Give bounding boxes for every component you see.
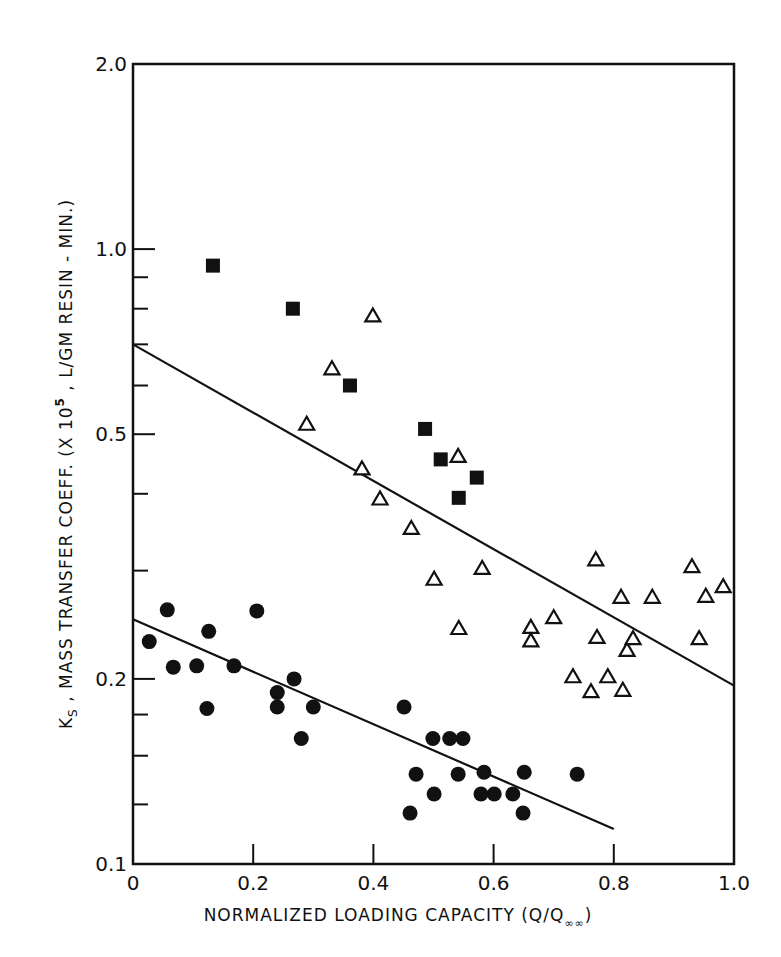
y-axis-ticks: 0.10.20.51.02.0 <box>95 52 155 876</box>
triangle-marker <box>404 521 419 534</box>
circle-marker <box>442 731 457 746</box>
triangle-marker <box>324 361 339 374</box>
triangle-marker <box>698 589 713 602</box>
x-tick-label: 0.2 <box>237 871 269 895</box>
triangle-marker <box>373 492 388 505</box>
square-marker <box>286 302 300 316</box>
circle-marker <box>476 765 491 780</box>
triangle-marker <box>626 631 641 644</box>
circle-marker <box>142 634 157 649</box>
figure-caption <box>0 944 781 957</box>
triangle-marker <box>354 461 369 474</box>
fit-line <box>133 344 734 685</box>
regression-lines <box>133 344 734 829</box>
triangle-marker <box>645 590 660 603</box>
triangle-marker <box>565 669 580 682</box>
triangle-marker <box>589 630 604 643</box>
circle-marker <box>451 767 466 782</box>
circle-marker <box>409 767 424 782</box>
circle-marker <box>306 700 321 715</box>
circle-marker <box>455 731 470 746</box>
square-marker <box>470 471 484 485</box>
x-tick-label: 0.6 <box>478 871 510 895</box>
circle-marker <box>201 624 216 639</box>
fit-line <box>133 619 614 829</box>
data-markers <box>142 259 731 821</box>
circle-marker <box>427 786 442 801</box>
triangle-marker <box>427 572 442 585</box>
scatter-chart: 0.10.20.51.02.0 00.20.40.60.81.0 NORMALI… <box>0 0 781 957</box>
triangle-marker <box>546 610 561 623</box>
triangle-marker <box>692 631 707 644</box>
triangle-marker <box>299 417 314 430</box>
circle-marker <box>226 658 241 673</box>
x-tick-label: 0.8 <box>598 871 630 895</box>
circle-marker <box>166 660 181 675</box>
triangle-marker <box>451 449 466 462</box>
square-marker <box>434 452 448 466</box>
triangle-marker <box>615 683 630 696</box>
triangle-marker <box>583 684 598 697</box>
triangle-marker <box>365 308 380 321</box>
triangle-marker <box>588 552 603 565</box>
circle-marker <box>403 806 418 821</box>
x-tick-label: 0.4 <box>357 871 389 895</box>
y-tick-label: 2.0 <box>95 52 127 76</box>
x-tick-label: 1.0 <box>718 871 750 895</box>
y-tick-label: 0.1 <box>95 852 127 876</box>
y-tick-label: 0.2 <box>95 667 127 691</box>
circle-marker <box>199 701 214 716</box>
circle-marker <box>270 700 285 715</box>
x-tick-label: 0 <box>127 871 140 895</box>
circle-marker <box>473 786 488 801</box>
y-tick-label: 0.5 <box>95 422 127 446</box>
triangle-marker <box>684 559 699 572</box>
triangle-marker <box>716 579 731 592</box>
square-marker <box>206 259 220 273</box>
triangle-marker <box>614 590 629 603</box>
circle-marker <box>487 786 502 801</box>
y-tick-label: 1.0 <box>95 237 127 261</box>
circle-marker <box>287 671 302 686</box>
triangle-marker <box>475 561 490 574</box>
square-marker <box>343 379 357 393</box>
circle-marker <box>249 603 264 618</box>
x-axis-title: NORMALIZED LOADING CAPACITY (Q/Q∞∞) <box>204 905 593 930</box>
triangle-marker <box>600 669 615 682</box>
circle-marker <box>505 786 520 801</box>
circle-marker <box>294 731 309 746</box>
circle-marker <box>516 806 531 821</box>
circle-marker <box>425 731 440 746</box>
circle-marker <box>189 658 204 673</box>
circle-marker <box>570 767 585 782</box>
circle-marker <box>397 700 412 715</box>
triangle-marker <box>451 621 466 634</box>
circle-marker <box>160 602 175 617</box>
square-marker <box>418 422 432 436</box>
square-marker <box>452 491 466 505</box>
triangle-marker <box>523 620 538 633</box>
circle-marker <box>270 685 285 700</box>
x-axis-ticks: 00.20.40.60.81.0 <box>127 844 750 895</box>
y-axis-title: KS , MASS TRANSFER COEFF. (X 105 , L/GM … <box>53 199 80 729</box>
triangle-marker <box>523 633 538 646</box>
circle-marker <box>517 765 532 780</box>
